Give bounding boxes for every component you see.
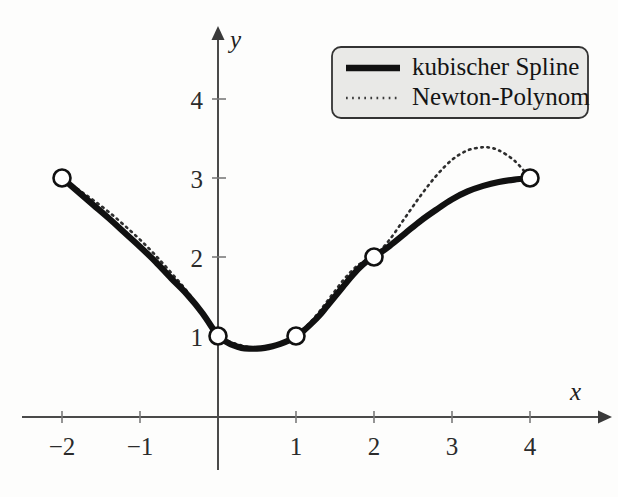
x-tick-label: −2 <box>49 433 76 460</box>
y-tick-label: 4 <box>191 87 204 114</box>
chart-figure: y x −2 −1 1 2 3 4 1 2 3 4 <box>0 0 618 497</box>
x-tick-label: 1 <box>290 433 303 460</box>
x-tick-group: −2 −1 1 2 3 4 <box>49 411 537 460</box>
legend: kubischer Spline Newton-Polynom <box>332 47 590 118</box>
knot-marker <box>366 249 383 266</box>
x-tick-label: 4 <box>524 433 537 460</box>
x-tick-label: 2 <box>368 433 381 460</box>
y-axis-arrowhead <box>212 26 225 40</box>
legend-label-spline: kubischer Spline <box>412 53 579 80</box>
x-axis-arrowhead <box>598 411 612 424</box>
chart-plot-area: y x −2 −1 1 2 3 4 1 2 3 4 <box>0 0 618 497</box>
x-tick-label: −1 <box>127 433 154 460</box>
y-axis-label: y <box>227 26 242 53</box>
knot-marker <box>288 328 305 345</box>
knot-marker <box>210 328 227 345</box>
y-tick-group: 1 2 3 4 <box>191 87 227 351</box>
cubic-spline-curve <box>62 178 530 349</box>
knot-marker <box>522 170 539 187</box>
legend-label-newton: Newton-Polynom <box>412 83 590 110</box>
knot-marker-group <box>54 170 539 345</box>
y-tick-label: 3 <box>191 166 204 193</box>
knot-marker <box>54 170 71 187</box>
y-tick-label: 2 <box>191 245 204 272</box>
newton-polynomial-curve <box>62 147 530 348</box>
x-axis-label: x <box>569 378 581 405</box>
y-tick-label: 1 <box>191 324 204 351</box>
x-tick-label: 3 <box>446 433 459 460</box>
